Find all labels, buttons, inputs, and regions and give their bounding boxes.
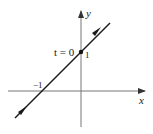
parametric-line xyxy=(15,23,110,118)
x-axis-label: x xyxy=(138,94,144,106)
t0-point xyxy=(79,50,83,54)
y-intercept-label: 1 xyxy=(85,50,90,60)
y-axis-label: y xyxy=(85,7,91,19)
direction-arrow-icon xyxy=(92,27,101,36)
x-intercept-label: −1 xyxy=(33,80,43,90)
diagram-canvas: y x t = 0 1 −1 xyxy=(0,0,153,134)
t0-label: t = 0 xyxy=(54,46,75,58)
